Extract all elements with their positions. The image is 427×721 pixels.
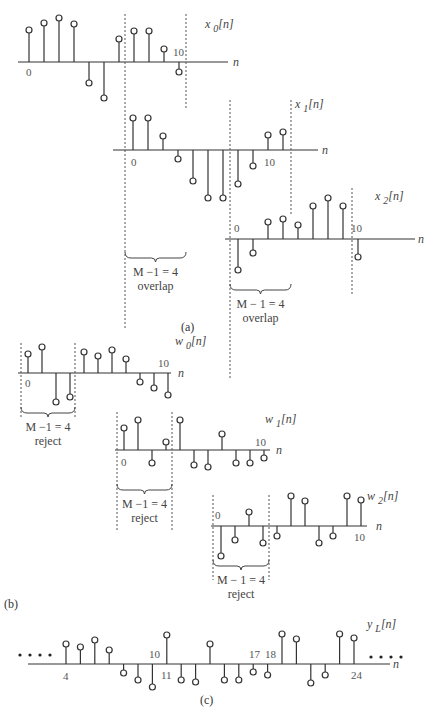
sample-marker-circle xyxy=(101,95,107,101)
sample-marker-circle xyxy=(250,669,256,675)
annotation-reject: reject xyxy=(228,587,255,601)
sample-marker-circle xyxy=(92,637,98,643)
sample-marker-circle xyxy=(63,641,69,647)
sample-marker-circle xyxy=(232,537,238,543)
sample-marker-circle xyxy=(355,254,361,260)
stem-sample xyxy=(130,115,136,150)
sample-marker-circle xyxy=(135,677,141,683)
stem-sample xyxy=(337,631,343,664)
sample-marker-circle xyxy=(165,392,171,398)
annotation-overlap: overlap xyxy=(138,279,174,293)
sample-marker-circle xyxy=(219,431,225,437)
annotation-m-minus-1: M −1 = 4 xyxy=(25,420,70,434)
sample-marker-circle xyxy=(86,80,92,86)
ellipsis-dot xyxy=(48,653,51,656)
sample-marker-circle xyxy=(130,115,136,121)
tick-label: 0 xyxy=(234,222,240,234)
sample-marker-circle xyxy=(41,20,47,26)
panel-caption-c: (c) xyxy=(200,693,213,707)
tick-label: 10 xyxy=(354,531,366,543)
sample-marker-circle xyxy=(109,347,115,353)
series-label-x0: x 0[n] xyxy=(204,17,234,34)
stem-sample xyxy=(207,641,213,664)
sample-marker-circle xyxy=(280,216,286,222)
stem-sample xyxy=(123,356,129,373)
stem-sample xyxy=(218,526,224,559)
stem-plot-x1: n010M −1 = 4overlap xyxy=(113,100,328,380)
sample-marker-circle xyxy=(207,641,213,647)
sample-marker-circle xyxy=(71,21,77,27)
tick-label: 18 xyxy=(265,648,277,660)
tick-label: 10 xyxy=(149,648,161,660)
stem-sample xyxy=(137,373,143,385)
stem-sample xyxy=(163,439,169,450)
sample-marker-circle xyxy=(279,631,285,637)
stem-sample xyxy=(351,635,357,664)
sample-marker-circle xyxy=(190,178,196,184)
axis-label-n: n xyxy=(178,366,184,380)
sample-marker-circle xyxy=(295,222,301,228)
sample-marker-circle xyxy=(121,425,127,431)
tick-label: 10 xyxy=(264,156,276,168)
stem-sample xyxy=(265,132,271,150)
sample-marker-circle xyxy=(191,462,197,468)
stem-sample xyxy=(131,28,137,62)
sample-marker-circle xyxy=(260,540,266,546)
sample-marker-circle xyxy=(149,684,155,690)
sample-marker-circle xyxy=(145,115,151,121)
stem-sample xyxy=(56,15,62,62)
stem-sample xyxy=(293,636,299,664)
axis-label-n: n xyxy=(393,657,399,671)
stem-sample xyxy=(190,150,196,184)
stem-sample xyxy=(340,203,346,239)
sample-marker-circle xyxy=(322,672,328,678)
stem-plot-x0: n010 xyxy=(18,14,239,330)
sample-marker-circle xyxy=(308,680,314,686)
stem-sample xyxy=(106,647,112,664)
stem-sample xyxy=(135,417,141,450)
series-label-w0: w 0[n] xyxy=(175,334,207,351)
stem-sample xyxy=(235,150,241,187)
curly-brace xyxy=(125,252,186,262)
sample-marker-circle xyxy=(316,540,322,546)
sample-marker-circle xyxy=(56,15,62,21)
stem-sample xyxy=(233,450,239,466)
curly-brace xyxy=(21,407,75,417)
stem-sample xyxy=(25,351,31,373)
stem-sample xyxy=(205,450,211,470)
sample-marker-circle xyxy=(250,163,256,169)
sample-marker-circle xyxy=(178,677,184,683)
stem-sample xyxy=(161,46,167,62)
stem-sample xyxy=(63,641,69,664)
sample-marker-circle xyxy=(274,533,280,539)
stem-sample xyxy=(250,150,256,169)
stem-sample xyxy=(261,450,267,461)
sample-marker-circle xyxy=(53,399,59,405)
stem-sample xyxy=(193,664,199,685)
stem-sample xyxy=(250,239,256,256)
sample-marker-circle xyxy=(235,181,241,187)
stem-sample xyxy=(116,36,122,62)
stem-sample xyxy=(86,62,92,86)
sample-marker-circle xyxy=(246,509,252,515)
series-label-x2: x 2[n] xyxy=(374,189,404,206)
stem-sample xyxy=(121,425,127,450)
stem-sample xyxy=(135,664,141,683)
sample-marker-circle xyxy=(265,132,271,138)
sample-marker-circle xyxy=(205,464,211,470)
stem-sample xyxy=(250,664,256,675)
series-label-w1: w 1[n] xyxy=(265,412,297,429)
tick-label: 24 xyxy=(351,669,363,681)
curly-brace xyxy=(213,560,269,570)
series-label-x1: x 1[n] xyxy=(294,97,324,114)
tick-label: 10 xyxy=(173,46,185,58)
stem-sample xyxy=(149,664,155,690)
stem-sample xyxy=(39,344,45,373)
sample-marker-circle xyxy=(163,439,169,445)
ellipsis-dot xyxy=(399,655,402,658)
annotation-reject: reject xyxy=(131,511,158,525)
stem-sample xyxy=(77,644,83,664)
sample-marker-circle xyxy=(67,394,73,400)
sample-marker-circle xyxy=(26,27,32,33)
sample-marker-circle xyxy=(161,46,167,52)
